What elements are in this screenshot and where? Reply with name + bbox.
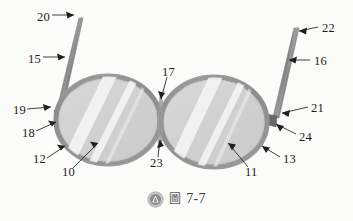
figure-caption: 圖 7-7 bbox=[0, 186, 353, 212]
right-lens-group bbox=[161, 66, 267, 178]
circle-triangle-logo-icon bbox=[147, 191, 164, 208]
arrowhead-21 bbox=[282, 110, 290, 117]
ref-label-24: 24 bbox=[299, 131, 312, 144]
ref-label-17: 17 bbox=[162, 66, 175, 79]
ref-label-15: 15 bbox=[28, 53, 41, 66]
left-lens-group bbox=[56, 64, 160, 174]
ref-label-13: 13 bbox=[283, 153, 296, 166]
arrowhead-20 bbox=[66, 12, 74, 19]
ref-label-18: 18 bbox=[22, 127, 35, 140]
arrowhead-15 bbox=[57, 54, 65, 61]
arrowhead-19 bbox=[43, 104, 51, 111]
figure-page: 20 15 19 18 12 10 17 23 11 13 24 21 16 2… bbox=[0, 0, 353, 221]
arrowhead-13 bbox=[262, 146, 270, 153]
arrowhead-22 bbox=[299, 28, 307, 35]
ref-label-20: 20 bbox=[37, 11, 50, 24]
ref-label-16: 16 bbox=[314, 55, 327, 68]
caption-figure-number: 7-7 bbox=[186, 192, 206, 206]
arrowhead-17 bbox=[158, 91, 165, 99]
caption-cjk-character: 圖 bbox=[169, 193, 181, 205]
ref-label-21: 21 bbox=[311, 102, 324, 115]
ref-label-12: 12 bbox=[33, 153, 46, 166]
ref-label-19: 19 bbox=[13, 104, 26, 117]
right-temple-arm-group bbox=[273, 28, 299, 118]
ref-label-10: 10 bbox=[62, 166, 75, 179]
ref-label-23: 23 bbox=[150, 157, 163, 170]
ref-label-22: 22 bbox=[322, 22, 335, 35]
ref-label-11: 11 bbox=[245, 166, 257, 179]
